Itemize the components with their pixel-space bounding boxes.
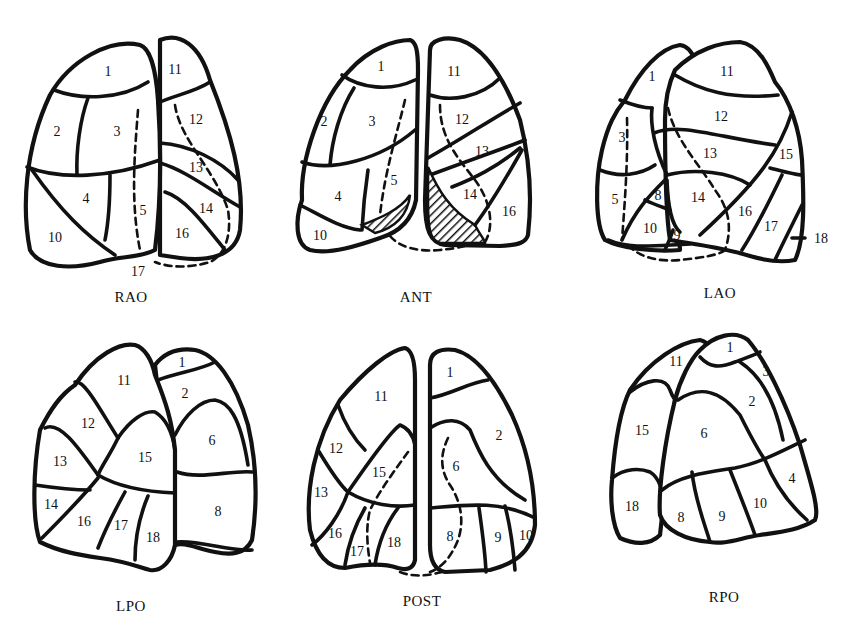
segment-label-11: 11 [374, 390, 387, 404]
segment-label-16: 16 [738, 205, 752, 219]
segment-label-11: 11 [168, 63, 181, 77]
segment-label-15: 15 [779, 148, 793, 162]
segment-label-16: 16 [502, 205, 516, 219]
segment-label-4: 4 [789, 472, 796, 486]
segment-label-1: 1 [378, 60, 385, 74]
view-lao: 1 3 5 8 9 10 11 12 13 14 15 16 17 18 LAO [570, 0, 852, 310]
segment-label-3: 3 [619, 131, 626, 145]
segment-label-13: 13 [314, 486, 328, 500]
segment-label-4: 4 [83, 192, 90, 206]
segment-label-3: 3 [114, 125, 121, 139]
segment-label-8: 8 [447, 530, 454, 544]
segment-label-2: 2 [496, 429, 503, 443]
segment-label-5: 5 [391, 174, 398, 188]
segment-label-2: 2 [749, 395, 756, 409]
segment-label-1: 1 [727, 341, 734, 355]
segment-label-16: 16 [77, 515, 91, 529]
segment-label-1: 1 [105, 65, 112, 79]
segment-label-11: 11 [720, 65, 733, 79]
segment-label-9: 9 [495, 531, 502, 545]
segment-label-14: 14 [199, 202, 213, 216]
view-caption-lao: LAO [704, 285, 736, 302]
segment-label-12: 12 [455, 113, 469, 127]
view-caption-lpo: LPO [116, 598, 146, 615]
segment-label-17: 17 [131, 265, 145, 279]
segment-label-6: 6 [453, 460, 460, 474]
view-ant: 1 2 3 4 5 10 11 12 13 14 16 ANT [280, 0, 570, 310]
segment-label-10: 10 [753, 497, 767, 511]
segment-label-13: 13 [189, 161, 203, 175]
segment-label-15: 15 [635, 424, 649, 438]
segment-label-12: 12 [329, 442, 343, 456]
segment-label-12: 12 [714, 110, 728, 124]
rpo-lung-drawing [570, 320, 852, 634]
segment-label-9: 9 [674, 229, 681, 243]
segment-label-6: 6 [209, 434, 216, 448]
ant-lung-drawing [280, 0, 570, 310]
segment-label-10: 10 [643, 222, 657, 236]
segment-label-11: 11 [447, 65, 460, 79]
lpo-lung-drawing [0, 320, 280, 634]
segment-label-16: 16 [328, 527, 342, 541]
segment-label-8: 8 [215, 505, 222, 519]
view-caption-rao: RAO [114, 289, 147, 306]
segment-label-12: 12 [189, 113, 203, 127]
segment-label-18: 18 [387, 536, 401, 550]
segment-label-15: 15 [138, 451, 152, 465]
segment-label-8: 8 [678, 511, 685, 525]
segment-label-15: 15 [372, 466, 386, 480]
segment-label-11: 11 [669, 355, 682, 369]
view-caption-ant: ANT [400, 289, 432, 306]
segment-label-3: 3 [369, 115, 376, 129]
post-lung-drawing [280, 320, 570, 634]
segment-label-12: 12 [81, 417, 95, 431]
segment-label-2: 2 [182, 387, 189, 401]
segment-label-2: 2 [321, 115, 328, 129]
segment-label-13: 13 [703, 147, 717, 161]
view-rpo: 1 2 3 4 6 8 9 10 11 15 18 RPO [570, 320, 852, 634]
segment-label-9: 9 [719, 510, 726, 524]
segment-label-11: 11 [117, 374, 130, 388]
segment-label-14: 14 [44, 498, 58, 512]
view-caption-post: POST [403, 593, 442, 610]
segment-label-6: 6 [701, 427, 708, 441]
segment-label-1: 1 [649, 70, 656, 84]
segment-label-18: 18 [146, 531, 160, 545]
segment-label-5: 5 [140, 204, 147, 218]
segment-label-17: 17 [350, 545, 364, 559]
segment-label-1: 1 [447, 366, 454, 380]
segment-label-18: 18 [814, 232, 828, 246]
segment-label-13: 13 [475, 145, 489, 159]
segment-label-17: 17 [764, 220, 778, 234]
view-caption-rpo: RPO [709, 589, 740, 606]
segment-label-10: 10 [48, 231, 62, 245]
segment-label-4: 4 [335, 190, 342, 204]
segment-label-8: 8 [655, 189, 662, 203]
segment-label-17: 17 [114, 519, 128, 533]
segment-label-16: 16 [175, 227, 189, 241]
segment-label-13: 13 [53, 455, 67, 469]
segment-label-1: 1 [179, 356, 186, 370]
view-post: 1 2 6 8 9 10 11 12 13 15 16 17 18 POST [280, 320, 570, 634]
view-lpo: 1 2 6 8 11 12 13 14 15 16 17 18 LPO [0, 320, 280, 634]
segment-label-3: 3 [763, 365, 770, 379]
segment-label-18: 18 [625, 500, 639, 514]
segment-label-14: 14 [691, 191, 705, 205]
segment-label-2: 2 [54, 125, 61, 139]
segment-label-14: 14 [463, 188, 477, 202]
segment-label-10: 10 [313, 229, 327, 243]
segment-label-10: 10 [519, 529, 533, 543]
segment-label-5: 5 [612, 193, 619, 207]
view-rao: 1 2 3 4 5 10 11 12 13 14 16 17 RAO [0, 0, 280, 310]
